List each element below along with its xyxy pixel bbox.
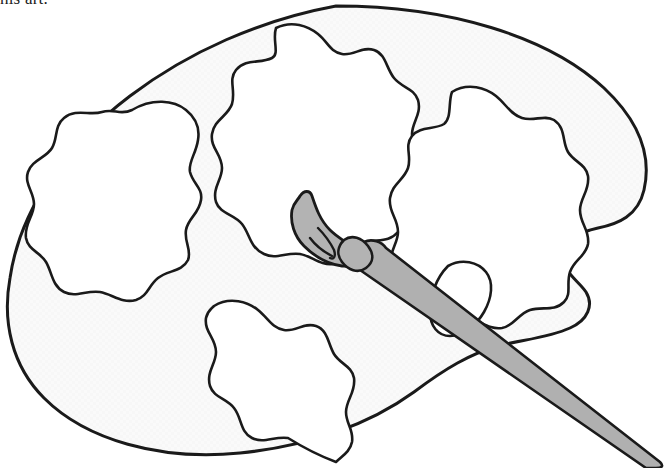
paint-well-top-left (26, 102, 202, 301)
palette-artwork (0, 0, 669, 468)
illustration-page: his art. (0, 0, 669, 468)
